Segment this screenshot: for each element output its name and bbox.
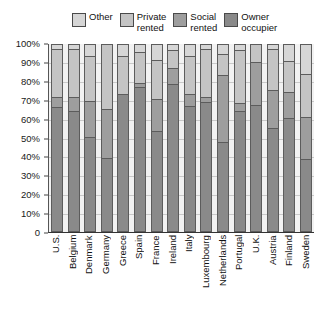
bar-segment	[284, 45, 294, 61]
bar-segment	[301, 45, 311, 74]
bar-segment	[301, 74, 311, 117]
x-axis-tick-label: Denmark	[83, 235, 95, 317]
x-axis-tick-label: Italy	[183, 235, 195, 317]
bar[interactable]	[117, 44, 129, 232]
x-axis-tick-label: U.S.	[50, 235, 62, 317]
bar-segment	[201, 49, 211, 98]
x-axis-tick-label: Sweden	[300, 235, 312, 317]
y-axis-tick-label: 90%	[21, 58, 40, 68]
bar-segment	[102, 45, 112, 109]
y-axis-tick-label: 60%	[21, 115, 40, 125]
legend-label: Owner occupier	[241, 12, 277, 33]
legend-swatch-icon	[173, 13, 187, 27]
bar-segment	[152, 131, 162, 231]
plot-area	[48, 44, 314, 233]
bar-segment	[102, 109, 112, 158]
legend-label: Social rented	[190, 12, 217, 33]
bar-segment	[185, 56, 195, 94]
bar-segment	[168, 68, 178, 84]
y-axis-tick-label: 30%	[21, 171, 40, 181]
bar[interactable]	[300, 44, 312, 232]
y-axis-tick-label: 0	[35, 228, 40, 238]
bar-segment	[268, 49, 278, 90]
bar[interactable]	[283, 44, 295, 232]
bar-segment	[301, 159, 311, 231]
x-axis-tick-label: U.K.	[250, 235, 262, 317]
y-axis-tick-label: 20%	[21, 190, 40, 200]
bar-segment	[168, 84, 178, 231]
x-axis-tick-label: Finland	[283, 235, 295, 317]
legend-item[interactable]: Owner occupier	[224, 12, 277, 33]
bar-segment	[152, 45, 162, 60]
bar-segment	[152, 60, 162, 99]
bar[interactable]	[84, 44, 96, 232]
y-axis: 010%20%30%40%50%60%70%80%90%100%	[0, 38, 44, 239]
x-axis-tick-label: France	[150, 235, 162, 317]
legend-swatch-icon	[120, 13, 134, 27]
bar[interactable]	[217, 44, 229, 232]
x-axis-tick-label: Germany	[100, 235, 112, 317]
y-axis-tick-label: 50%	[21, 134, 40, 144]
bar-segment	[218, 75, 228, 142]
bar-segment	[85, 56, 95, 101]
bar[interactable]	[51, 44, 63, 232]
bar-segment	[251, 105, 261, 231]
bar-segment	[85, 101, 95, 137]
bar[interactable]	[101, 44, 113, 232]
bar-segment	[201, 102, 211, 231]
bar-segment	[102, 158, 112, 231]
bar-segment	[118, 45, 128, 56]
bar-segment	[284, 92, 294, 119]
bar-segment	[185, 94, 195, 106]
legend-label: Other	[89, 12, 113, 23]
bar-segment	[284, 61, 294, 91]
y-axis-tick-label: 80%	[21, 77, 40, 87]
x-axis-tick-label: Ireland	[167, 235, 179, 317]
bar-segment	[135, 52, 145, 82]
bar-group	[49, 44, 314, 232]
legend-item[interactable]: Private rented	[120, 12, 167, 33]
x-axis-tick-label: Greece	[117, 235, 129, 317]
bar-segment	[168, 50, 178, 67]
bar-segment	[301, 117, 311, 158]
legend-item[interactable]: Social rented	[173, 12, 217, 33]
bar[interactable]	[184, 44, 196, 232]
x-axis: U.S.BelgiumDenmarkGermanyGreeceSpainFran…	[48, 235, 314, 317]
y-axis-tick-label: 100%	[16, 39, 40, 49]
bar-segment	[235, 103, 245, 111]
bar[interactable]	[151, 44, 163, 232]
bar[interactable]	[167, 44, 179, 232]
bar[interactable]	[250, 44, 262, 232]
bar[interactable]	[68, 44, 80, 232]
bar[interactable]	[267, 44, 279, 232]
bar-segment	[235, 50, 245, 102]
bar-segment	[185, 106, 195, 231]
stacked-bar-chart: OtherPrivate rentedSocial rentedOwner oc…	[0, 0, 332, 319]
bar-segment	[135, 45, 145, 52]
bar-segment	[284, 118, 294, 231]
legend-swatch-icon	[224, 13, 238, 27]
bar[interactable]	[234, 44, 246, 232]
legend-item[interactable]: Other	[72, 12, 113, 27]
bar[interactable]	[134, 44, 146, 232]
bar-segment	[118, 94, 128, 231]
bar-segment	[85, 137, 95, 231]
y-axis-tick-label: 10%	[21, 209, 40, 219]
y-axis-tick-label: 70%	[21, 96, 40, 106]
bar-segment	[268, 90, 278, 128]
legend-label: Private rented	[137, 12, 167, 33]
bar-segment	[135, 87, 145, 231]
bar-segment	[52, 49, 62, 98]
bar-segment	[218, 54, 228, 75]
y-axis-tick-label: 40%	[21, 152, 40, 162]
bar-segment	[52, 97, 62, 107]
x-axis-tick-label: Austria	[267, 235, 279, 317]
bar-segment	[185, 45, 195, 56]
bar-segment	[251, 45, 261, 62]
bar[interactable]	[200, 44, 212, 232]
x-axis-tick-label: Portugal	[233, 235, 245, 317]
x-axis-tick-label: Luxembourg	[200, 235, 212, 317]
bar-segment	[69, 49, 79, 98]
bar-segment	[69, 111, 79, 231]
bar-segment	[268, 128, 278, 231]
